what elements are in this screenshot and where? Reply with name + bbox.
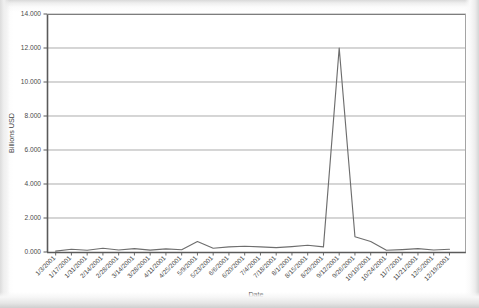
y-tick-labels: 0.0002.0004.0006.0008.00010.00012.00014.… — [21, 10, 42, 255]
plot-area-background — [47, 14, 466, 252]
y-axis-title: Billions USD — [7, 113, 16, 153]
y-tick-label: 0.000 — [24, 248, 41, 255]
y-tick-label: 12.000 — [21, 44, 42, 51]
y-tick-label: 6.000 — [24, 146, 41, 153]
scanned-page: 0.0002.0004.0006.0008.00010.00012.00014.… — [0, 0, 479, 308]
y-tick-label: 2.000 — [24, 214, 41, 221]
y-tick-label: 4.000 — [24, 180, 41, 187]
x-axis-title: Date — [248, 290, 263, 299]
y-tick-label: 14.000 — [21, 10, 42, 17]
x-tick-labels: 1/3/20011/17/20011/31/20012/14/20012/28/… — [34, 254, 451, 282]
line-chart: 0.0002.0004.0006.0008.00010.00012.00014.… — [0, 0, 479, 308]
y-tick-marks — [44, 14, 48, 252]
y-tick-label: 8.000 — [24, 112, 41, 119]
y-tick-label: 10.000 — [21, 78, 42, 85]
